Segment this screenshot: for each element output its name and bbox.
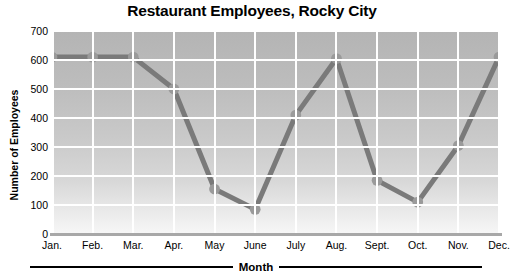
- gridline-horizontal: [52, 88, 500, 90]
- gridline-vertical: [417, 31, 419, 234]
- y-tick-label: 500: [18, 83, 48, 95]
- gridline-vertical: [173, 31, 175, 234]
- gridline-vertical: [498, 31, 500, 234]
- y-tick-label: 200: [18, 170, 48, 182]
- x-axis-title: Month: [239, 261, 273, 273]
- gridline-vertical: [132, 31, 134, 234]
- gridline-vertical: [214, 31, 216, 234]
- gridline-horizontal: [52, 204, 500, 206]
- chart-title: Restaurant Employees, Rocky City: [0, 2, 504, 20]
- gridline-vertical: [457, 31, 459, 234]
- y-tick-label: 100: [18, 199, 48, 211]
- y-axis-tick-labels: 0100200300400500600700: [18, 24, 48, 244]
- gridline-vertical: [295, 31, 297, 234]
- gridline-vertical: [52, 31, 54, 234]
- gridline-horizontal: [52, 59, 500, 61]
- y-tick-label: 700: [18, 25, 48, 37]
- x-axis-baseline: [50, 233, 502, 236]
- gridline-vertical: [254, 31, 256, 234]
- plot-area: [52, 31, 500, 234]
- gridline-horizontal: [52, 117, 500, 119]
- gridline-vertical: [335, 31, 337, 234]
- x-axis-tick-labels: Jan.Feb.Mar.Apr.MayJuneJulyAug.Sept.Oct.…: [52, 239, 500, 255]
- x-axis-title-row: Month: [30, 258, 482, 276]
- gridline-vertical: [92, 31, 94, 234]
- gridline-horizontal: [52, 31, 500, 32]
- y-tick-label: 600: [18, 54, 48, 66]
- x-axis-rule-left: [30, 266, 233, 268]
- series-line: [52, 57, 499, 209]
- x-tick-label: Dec.: [469, 239, 514, 251]
- x-axis-rule-right: [279, 266, 482, 268]
- y-tick-label: 300: [18, 141, 48, 153]
- gridline-vertical: [376, 31, 378, 234]
- y-tick-label: 400: [18, 112, 48, 124]
- gridline-horizontal: [52, 146, 500, 148]
- gridline-horizontal: [52, 175, 500, 177]
